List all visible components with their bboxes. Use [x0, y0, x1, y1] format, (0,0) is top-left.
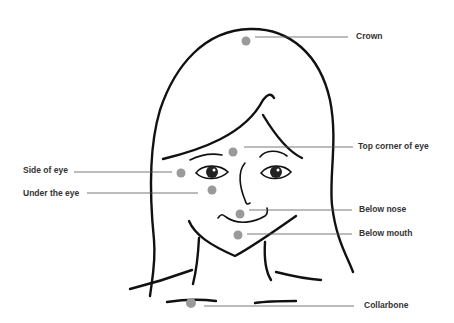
right-eye [261, 166, 291, 179]
shoulder-left [130, 270, 192, 289]
label-side-eye: Side of eye [23, 165, 68, 175]
label-collarbone: Collarbone [364, 300, 408, 310]
label-below-mouth: Below mouth [359, 228, 412, 238]
label-crown: Crown [356, 31, 382, 41]
neck-left [193, 238, 199, 284]
left-eyebrow [190, 154, 222, 160]
point-below-nose [236, 210, 245, 219]
point-collarbone [186, 298, 196, 308]
collarbone-right [255, 301, 296, 303]
neck-right [265, 242, 271, 280]
acupressure-diagram: Crown Top corner of eye Side of eye Unde… [0, 0, 454, 323]
bangs-left [163, 95, 274, 159]
hair-outline [150, 29, 353, 296]
left-eye [196, 166, 228, 179]
point-below-mouth [234, 231, 243, 240]
face-drawing [0, 0, 454, 323]
label-under-eye: Under the eye [23, 188, 79, 198]
right-eyebrow [260, 151, 287, 157]
label-below-nose: Below nose [359, 204, 406, 214]
label-top-corner-eye: Top corner of eye [358, 141, 429, 151]
point-crown [242, 37, 251, 46]
point-top-corner-eye [229, 148, 238, 157]
point-under-eye [208, 186, 217, 195]
point-side-eye [177, 169, 186, 178]
shoulder-right [276, 272, 321, 280]
nose [240, 163, 250, 204]
